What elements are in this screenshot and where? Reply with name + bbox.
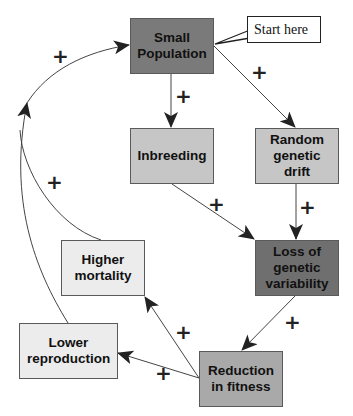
node-random-genetic-drift: Random genetic drift <box>255 128 339 184</box>
node-higher-mortality: Higher mortality <box>61 240 145 296</box>
start-here-callout: Start here <box>247 16 321 43</box>
sign-smallpop-inbreeding: + <box>175 86 192 106</box>
sign-smallpop-drift: + <box>251 62 268 82</box>
node-label: Reduction in fitness <box>206 363 276 395</box>
sign-loop-smallpop: + <box>52 46 69 66</box>
node-lower-reproduction: Lower reproduction <box>19 323 118 379</box>
node-label: Small Population <box>137 30 207 62</box>
sign-loss-reduction: + <box>284 312 301 332</box>
node-label: Random genetic drift <box>267 132 327 180</box>
node-inbreeding: Inbreeding <box>130 128 214 184</box>
node-label: Lower reproduction <box>24 335 114 367</box>
callout-pointer <box>215 30 250 44</box>
edge-smallpop-drift <box>213 45 295 127</box>
sign-drift-loss: + <box>299 197 316 217</box>
node-loss-genetic-variability: Loss of genetic variability <box>255 240 339 296</box>
node-reduction-in-fitness: Reduction in fitness <box>199 351 283 407</box>
node-label: Inbreeding <box>137 148 206 164</box>
edge-loop-smallpop <box>27 45 129 103</box>
sign-reduction-reproduction: + <box>155 363 172 383</box>
sign-reduction-mortality: + <box>175 322 192 342</box>
node-small-population: Small Population <box>130 18 214 74</box>
sign-inbreeding-loss: + <box>208 194 225 214</box>
node-label: Loss of genetic variability <box>262 244 332 292</box>
sign-reproduction-loop: + <box>46 172 63 192</box>
node-label: Higher mortality <box>73 252 133 284</box>
callout-label: Start here <box>254 22 308 37</box>
